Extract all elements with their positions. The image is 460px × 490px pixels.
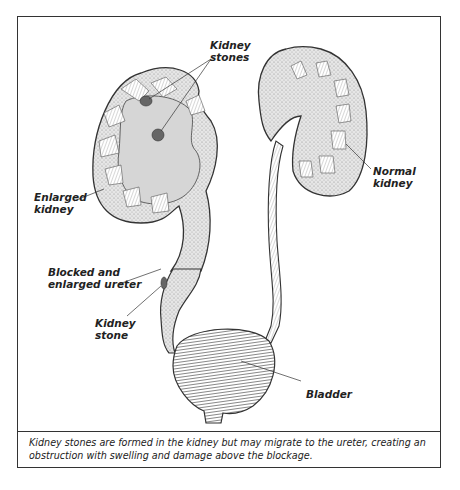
- label-line: stone: [95, 329, 136, 341]
- ureter-stone: [161, 277, 167, 289]
- bladder: [173, 329, 275, 423]
- figure-caption: Kidney stones are formed in the kidney b…: [29, 437, 433, 462]
- label-line: Enlarged: [34, 191, 87, 203]
- label-line: kidney: [34, 203, 87, 215]
- label-line: Normal: [373, 165, 416, 177]
- label-line: enlarged ureter: [48, 278, 141, 290]
- enlarged-kidney: [93, 68, 217, 271]
- label-bladder: Bladder: [306, 388, 352, 400]
- label-line: kidney: [373, 177, 416, 189]
- label-line: Kidney: [95, 317, 136, 329]
- caption-divider: [18, 431, 440, 432]
- kidney-stone-upper: [140, 96, 152, 106]
- leader-kidney-stone: [127, 286, 161, 316]
- label-blocked-ureter: Blocked and enlarged ureter: [48, 266, 141, 290]
- label-kidney-stone: Kidney stone: [95, 317, 136, 341]
- label-normal-kidney: Normal kidney: [373, 165, 416, 189]
- label-kidney-stones: Kidney stones: [210, 39, 251, 63]
- figure-frame: Kidney stones Enlarged kidney Normal kid…: [17, 16, 441, 468]
- label-enlarged-kidney: Enlarged kidney: [34, 191, 87, 215]
- label-line: Kidney: [210, 39, 251, 51]
- label-line: Blocked and: [48, 266, 141, 278]
- kidney-stone-center: [152, 129, 164, 141]
- normal-ureter: [265, 141, 283, 343]
- urinary-tract-illustration: [18, 17, 442, 431]
- label-line: stones: [210, 51, 251, 63]
